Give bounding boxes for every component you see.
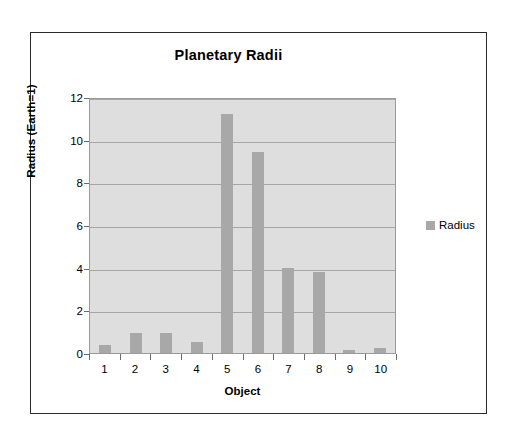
x-axis-tick-label: 5	[212, 363, 243, 375]
bar	[252, 152, 264, 353]
bar-slot	[212, 99, 243, 353]
x-axis-tick-mark	[243, 354, 244, 360]
y-axis-tick-mark	[84, 269, 89, 270]
y-axis-tick-label: 12	[37, 92, 83, 104]
chart-frame: Planetary Radii Radius (Earth=1) 1234567…	[30, 32, 487, 414]
y-axis-tick-mark	[84, 183, 89, 184]
bar-series-radius	[90, 99, 395, 353]
legend-label-radius: Radius	[439, 219, 475, 231]
x-axis-ticks	[89, 354, 396, 361]
bar	[313, 272, 325, 353]
bar	[160, 333, 172, 353]
x-axis-tick-mark	[120, 354, 121, 360]
bar-slot	[304, 99, 335, 353]
x-axis-labels: 12345678910	[89, 363, 396, 375]
bar-slot	[90, 99, 121, 353]
y-axis-tick-mark	[84, 354, 89, 355]
y-axis-tick-mark	[84, 98, 89, 99]
x-axis-tick-label: 8	[304, 363, 335, 375]
y-axis-tick-label: 2	[37, 305, 83, 317]
y-axis-tick-label: 6	[37, 220, 83, 232]
bar	[221, 114, 233, 353]
y-axis-tick-label: 4	[37, 263, 83, 275]
chart-title: Planetary Radii	[31, 47, 426, 63]
bar-slot	[273, 99, 304, 353]
x-axis-tick-label: 10	[365, 363, 396, 375]
plot-area	[89, 98, 396, 354]
x-axis-tick-label: 2	[120, 363, 151, 375]
y-axis-tick-mark	[84, 226, 89, 227]
y-axis-tick-label: 10	[37, 135, 83, 147]
x-axis-tick-mark	[89, 354, 90, 360]
y-axis-tick-mark	[84, 141, 89, 142]
x-axis-title: Object	[89, 385, 396, 397]
x-axis-tick-label: 1	[89, 363, 120, 375]
bar	[282, 268, 294, 353]
x-axis-tick-mark	[212, 354, 213, 360]
bar-slot	[151, 99, 182, 353]
x-axis-tick-label: 6	[243, 363, 274, 375]
x-axis-tick-mark	[304, 354, 305, 360]
bar	[191, 342, 203, 353]
x-axis-tick-mark	[396, 354, 397, 360]
x-axis-tick-label: 3	[150, 363, 181, 375]
x-axis-tick-mark	[273, 354, 274, 360]
bar-slot	[243, 99, 274, 353]
bar	[374, 348, 386, 353]
x-axis-tick-mark	[181, 354, 182, 360]
y-axis-tick-label: 8	[37, 177, 83, 189]
x-axis-tick-label: 4	[181, 363, 212, 375]
x-axis-tick-label: 9	[335, 363, 366, 375]
x-axis-tick-mark	[365, 354, 366, 360]
x-axis-tick-mark	[150, 354, 151, 360]
x-axis-tick-label: 7	[273, 363, 304, 375]
bar	[130, 333, 142, 353]
bar-slot	[365, 99, 396, 353]
x-axis-tick-mark	[335, 354, 336, 360]
bar-slot	[182, 99, 213, 353]
legend-swatch-radius	[426, 221, 435, 230]
bar	[343, 350, 355, 353]
legend: Radius	[426, 219, 475, 231]
y-axis-tick-mark	[84, 311, 89, 312]
y-axis-tick-label: 0	[37, 348, 83, 360]
bar-slot	[334, 99, 365, 353]
bar-slot	[121, 99, 152, 353]
bar	[99, 345, 111, 353]
y-axis-title: Radius (Earth=1)	[25, 36, 37, 226]
